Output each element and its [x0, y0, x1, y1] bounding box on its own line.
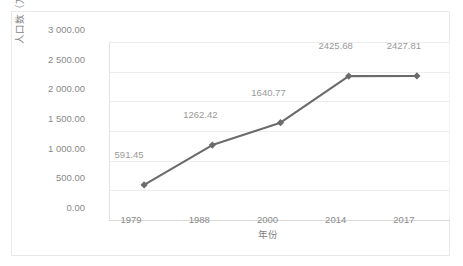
plot-area	[109, 42, 450, 220]
line-series	[110, 42, 451, 220]
y-tick-label: 1 500.00	[26, 114, 85, 124]
y-tick-label: 0.00	[26, 203, 85, 213]
y-tick-label: 1 000.00	[26, 144, 85, 154]
data-point-label: 2425.68	[319, 40, 353, 51]
data-point-label: 1640.77	[251, 87, 285, 98]
data-point-label: 591.45	[115, 149, 144, 160]
x-axis-title: 年份	[97, 229, 438, 241]
y-tick-label: 3 000.00	[26, 25, 85, 35]
x-tick-label: 2017	[393, 214, 414, 226]
data-point-marker	[413, 72, 420, 79]
x-axis-tick-labels: 19791988200020142017	[97, 214, 438, 228]
data-point-label: 2427.81	[387, 40, 421, 51]
x-tick-label: 1988	[189, 214, 210, 226]
y-tick-label: 2 000.00	[26, 84, 85, 94]
y-tick-label: 2 500.00	[26, 55, 85, 65]
data-point-label: 1262.42	[183, 109, 217, 120]
x-tick-label: 1979	[121, 214, 142, 226]
x-tick-label: 2000	[257, 214, 278, 226]
y-axis-tick-labels: 3 000.00 2 500.00 2 000.00 1 500.00 1 00…	[26, 0, 85, 266]
x-tick-label: 2014	[325, 214, 346, 226]
y-tick-label: 500.00	[26, 173, 85, 183]
